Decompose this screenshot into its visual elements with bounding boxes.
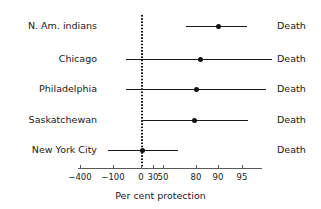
point-estimate-marker [192,118,197,123]
null-effect-reference-line [141,15,143,168]
x-axis-tick-label: 80 [191,173,202,182]
point-estimate-marker [216,24,221,29]
study-label: Chicago [0,54,97,64]
x-axis-tick-label: −100 [101,173,124,182]
point-estimate-marker [194,87,199,92]
outcome-label: Death [277,54,306,64]
x-axis-tick-mark [141,165,142,169]
forest-plot: N. Am. indiansDeathChicagoDeathPhiladelp… [0,0,321,209]
outcome-label: Death [277,145,306,155]
x-axis-title: Per cent protection [0,190,321,201]
x-axis-tick-mark [80,165,81,169]
study-label: New York City [0,145,97,155]
x-axis-tick-label: 90 [213,173,224,182]
point-estimate-marker [140,148,145,153]
study-label: Saskatchewan [0,115,97,125]
outcome-label: Death [277,84,306,94]
point-estimate-marker [198,57,203,62]
x-axis-tick-mark [242,165,243,169]
outcome-label: Death [277,21,306,31]
study-label: Philadelphia [0,84,97,94]
x-axis-tick-label: −400 [68,173,91,182]
study-label: N. Am. indians [0,21,97,31]
outcome-label: Death [277,115,306,125]
x-axis-tick-label: 0 [138,173,143,182]
x-axis-line [78,168,262,169]
x-axis-tick-mark [163,165,164,169]
x-axis-tick-label: 50 [158,173,169,182]
x-axis-tick-mark [153,165,154,169]
x-axis-tick-mark [218,165,219,169]
x-axis-tick-mark [113,165,114,169]
x-axis-tick-mark [196,165,197,169]
x-axis-tick-label: 95 [237,173,248,182]
